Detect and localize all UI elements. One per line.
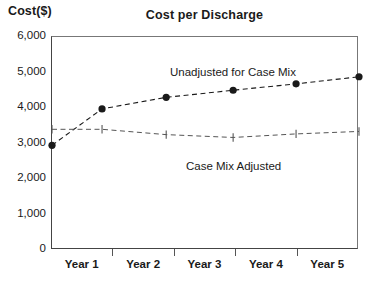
x-tick-label-4: Year 4 bbox=[231, 258, 301, 270]
x-axis-tick-mark bbox=[112, 249, 113, 256]
series-label-adjusted: Case Mix Adjusted bbox=[186, 160, 281, 172]
cost-per-discharge-chart: Cost($) Cost per Discharge 01,0002,0003,… bbox=[0, 0, 371, 292]
x-axis-tick-layer: Year 1Year 2Year 3Year 4Year 5 bbox=[0, 0, 371, 292]
x-axis-tick-mark bbox=[297, 249, 298, 256]
x-axis-tick-mark bbox=[174, 249, 175, 256]
series-label-unadjusted: Unadjusted for Case Mix bbox=[170, 66, 296, 78]
x-tick-label-5: Year 5 bbox=[292, 258, 362, 270]
x-tick-label-1: Year 1 bbox=[47, 258, 117, 270]
x-tick-label-2: Year 2 bbox=[108, 258, 178, 270]
x-axis-tick-mark bbox=[235, 249, 236, 256]
x-tick-label-3: Year 3 bbox=[170, 258, 240, 270]
